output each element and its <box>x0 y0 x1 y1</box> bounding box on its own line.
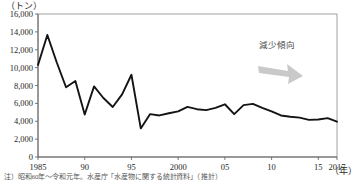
x-axis-tick-group: 1985909520000510152017 <box>30 157 346 172</box>
plot-frame <box>38 14 337 157</box>
y-axis-tick-label: 0 <box>29 152 33 162</box>
y-axis-tick-label: 12,000 <box>10 45 33 55</box>
x-axis-tick-label: 95 <box>127 162 136 172</box>
trend-annotation-label: 減少傾向 <box>259 40 295 50</box>
line-chart-plot: 02,0004,0006,0008,00010,00012,00014,0001… <box>0 0 353 180</box>
x-axis-tick-label: 90 <box>80 162 89 172</box>
y-axis-tick-label: 16,000 <box>10 9 33 19</box>
x-axis-tick-label: 1985 <box>30 162 47 172</box>
trend-arrow-icon <box>258 64 303 84</box>
y-axis-tick-group: 02,0004,0006,0008,00010,00012,00014,0001… <box>10 9 38 162</box>
y-axis-tick-label: 2,000 <box>14 134 33 144</box>
x-axis-tick-label: 2017 <box>329 162 346 172</box>
x-axis-tick-label: 05 <box>221 162 230 172</box>
y-axis-tick-label: 8,000 <box>14 81 33 91</box>
y-axis-tick-label: 6,000 <box>14 98 33 108</box>
chart-figure: （トン） （年） 02,0004,0006,0008,00010,00012,0… <box>0 0 353 180</box>
x-axis-tick-label: 2000 <box>170 162 187 172</box>
x-axis-tick-label: 10 <box>267 162 276 172</box>
figure-caption: 注）昭和60年～令和元年。水産庁「水産物に関する統計資料」（推計） <box>4 173 222 180</box>
y-axis-tick-label: 10,000 <box>10 63 33 73</box>
x-axis-tick-label: 15 <box>314 162 323 172</box>
y-axis-tick-label: 4,000 <box>14 116 33 126</box>
y-axis-tick-label: 14,000 <box>10 27 33 37</box>
